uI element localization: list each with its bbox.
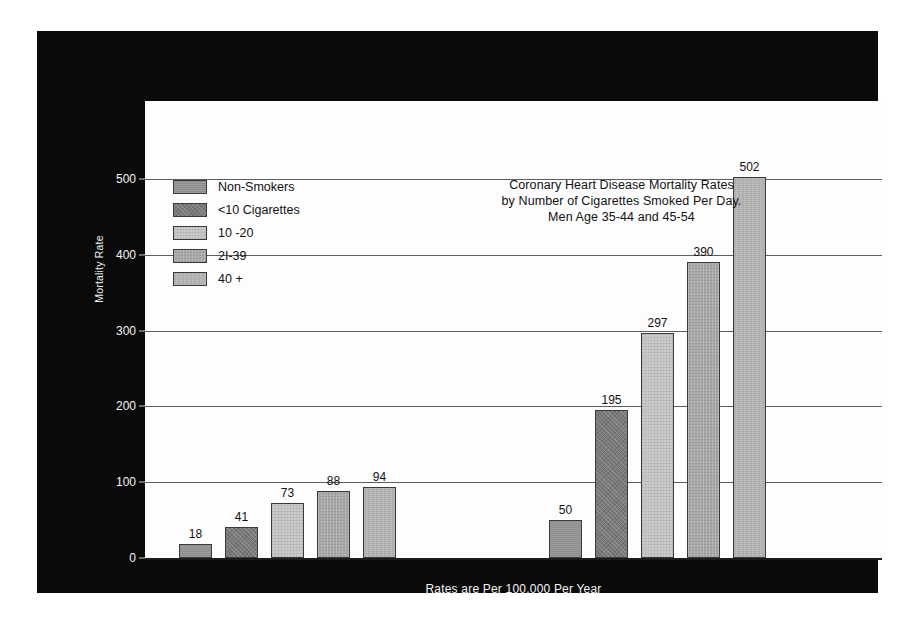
bar: [733, 177, 766, 558]
bar: [641, 333, 674, 558]
legend-swatch-icon: [173, 249, 207, 263]
bar-value-label: 94: [373, 470, 386, 484]
bar-value-label: 195: [601, 393, 621, 407]
bar-value-label: 390: [693, 245, 713, 259]
legend-swatch-icon: [173, 272, 207, 286]
legend-swatch-icon: [173, 180, 207, 194]
legend-swatch-icon: [173, 203, 207, 217]
bar-value-label: 50: [559, 503, 572, 517]
y-axis-title: Mortality Rate: [93, 204, 105, 334]
x-axis-caption: Rates are Per 100,000 Per Year: [145, 582, 882, 596]
bar-value-label: 297: [647, 316, 667, 330]
chart-panel: Mortality Rate 0100200300400500 18417388…: [37, 31, 878, 593]
y-tick-label-200: 200: [84, 399, 136, 413]
bar-value-label: 18: [189, 527, 202, 541]
legend-item-label: 10 -20: [218, 223, 253, 243]
legend-item-label: Non-Smokers: [218, 177, 294, 197]
bar: [687, 262, 720, 558]
axis-baseline: [145, 558, 882, 560]
legend-item-label: <10 Cigarettes: [218, 200, 300, 220]
chart-title-line-3: Men Age 35-44 and 45-54: [253, 209, 911, 225]
bar-value-label: 41: [235, 510, 248, 524]
bar: [271, 503, 304, 558]
bar: [317, 491, 350, 558]
legend-swatch-icon: [173, 226, 207, 240]
bar: [595, 410, 628, 558]
bar: [549, 520, 582, 558]
bar-value-label: 502: [739, 160, 759, 174]
bar-value-label: 73: [281, 486, 294, 500]
y-tick-label-100: 100: [84, 475, 136, 489]
bar: [179, 544, 212, 558]
bar: [363, 487, 396, 558]
chart-title-line-1: Coronary Heart Disease Mortality Rates: [253, 177, 911, 193]
plot-area: 184173889450195297390502 Coronary Heart …: [145, 101, 882, 559]
y-tick-label-400: 400: [84, 248, 136, 262]
y-tick-label-0: 0: [84, 551, 136, 565]
gridline-400: [145, 255, 882, 256]
y-tick-label-500: 500: [84, 172, 136, 186]
legend-item-label: 2I-39: [218, 246, 247, 266]
chart-title: Coronary Heart Disease Mortality Ratesby…: [253, 177, 911, 225]
y-tick-label-300: 300: [84, 324, 136, 338]
bar: [225, 527, 258, 558]
gridline-300: [145, 331, 882, 332]
gridline-100: [145, 482, 882, 483]
bar-value-label: 88: [327, 474, 340, 488]
legend-item-label: 40 +: [218, 269, 243, 289]
gridline-200: [145, 406, 882, 407]
chart-title-line-2: by Number of Cigarettes Smoked Per Day.: [253, 193, 911, 209]
figure: Mortality Rate 0100200300400500 18417388…: [0, 0, 911, 624]
